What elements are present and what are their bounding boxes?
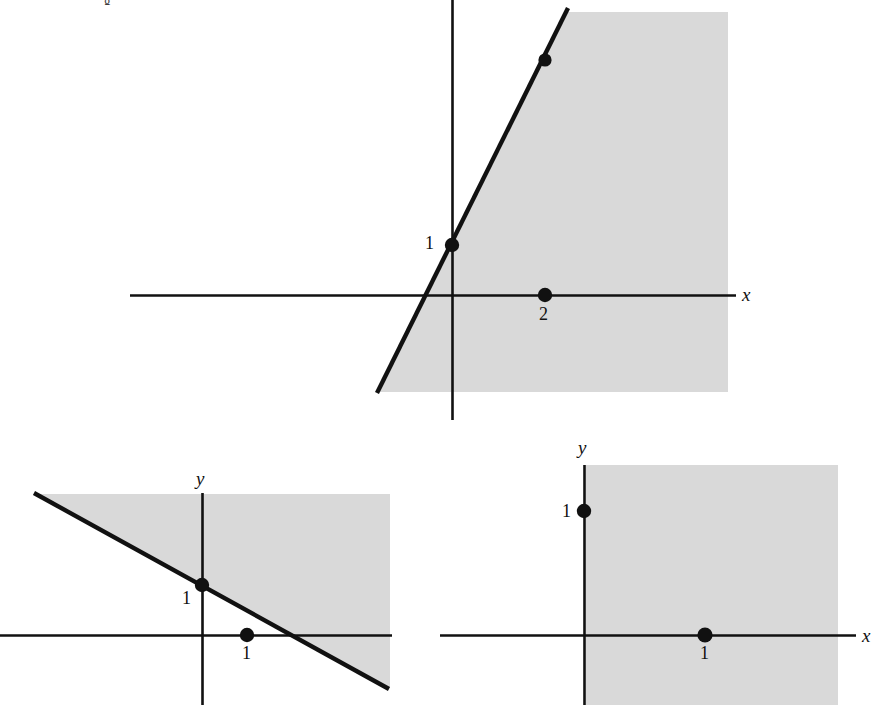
- tick-label-y-one-bottom-right: 1: [562, 502, 571, 520]
- marked-point-y-intercept-top: [445, 238, 459, 252]
- marked-point-y-intercept-bottom-right: [577, 504, 591, 518]
- y-axis-label-bottom-left: y: [196, 469, 204, 488]
- shaded-region-top: [378, 12, 728, 392]
- tick-label-x-two-top: 2: [539, 305, 548, 323]
- panel-bottom-left-graphic: [0, 430, 430, 705]
- tick-label-x-one-bottom-right: 1: [700, 644, 709, 662]
- x-axis-label-bottom-right: x: [862, 626, 870, 645]
- x-axis-label-top: x: [742, 285, 750, 304]
- panel-bottom-left: x y 1 1: [0, 430, 430, 705]
- marked-point-x-bottom-right: [697, 627, 712, 642]
- marked-point-y-intercept-bottom-left: [195, 578, 209, 592]
- tick-label-y-one-top: 1: [425, 234, 434, 252]
- shaded-region-bottom-right: [586, 465, 838, 705]
- tick-label-x-one-bottom-left: 1: [242, 644, 251, 662]
- marked-point-x-bottom-left: [240, 628, 254, 642]
- panel-bottom-right-graphic: [440, 430, 873, 705]
- tick-label-y-one-bottom-left: 1: [182, 589, 191, 607]
- y-axis-label-bottom-right: y: [578, 438, 586, 457]
- panel-top: x 1 2: [0, 0, 873, 420]
- marked-point-upper-top: [538, 53, 551, 66]
- figure-container: g x 1 2: [0, 0, 873, 705]
- panel-bottom-right: x y 1 1: [440, 430, 873, 705]
- marked-point-x-top: [538, 288, 552, 302]
- panel-top-graphic: [0, 0, 873, 420]
